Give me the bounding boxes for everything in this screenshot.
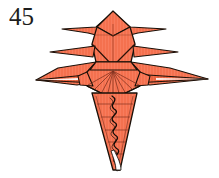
body-collar (90, 62, 137, 70)
diagram-page: 45 (0, 0, 219, 178)
upper-right-wing-spike (133, 46, 178, 57)
origami-figure (0, 0, 219, 178)
upper-left-wing-spike (50, 46, 95, 57)
